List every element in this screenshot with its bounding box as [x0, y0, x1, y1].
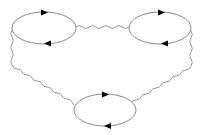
fermion-loop-top-right [129, 10, 191, 47]
photon-propagator-left [11, 30, 74, 105]
arrow-left-icon [161, 41, 168, 47]
photon-propagator-right [132, 31, 192, 102]
fermion-loop-bottom [74, 92, 136, 130]
arrow-right-icon [102, 92, 109, 98]
arrow-right-icon [158, 10, 165, 16]
feynman-diagram [0, 0, 202, 135]
arrow-right-icon [41, 10, 48, 16]
arrow-left-icon [44, 41, 51, 47]
fermion-loop-top-left [12, 10, 76, 47]
arrow-left-icon [104, 123, 111, 129]
photon-propagator-top [76, 26, 129, 29]
